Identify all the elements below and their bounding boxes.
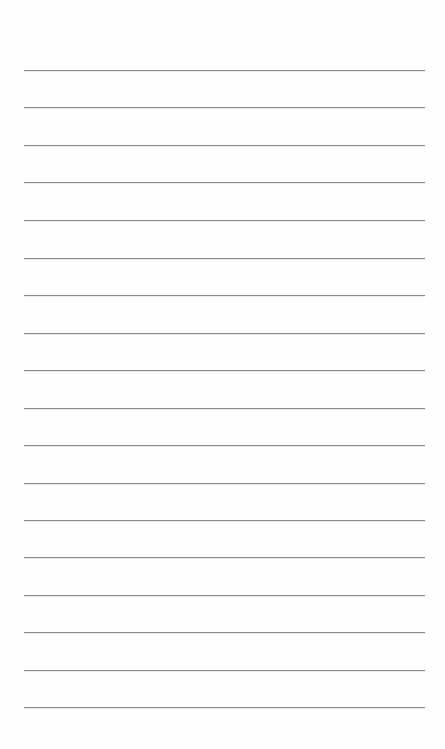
ruled-line [24, 670, 425, 671]
ruled-line [24, 445, 425, 446]
ruled-line [24, 408, 425, 409]
ruled-line [24, 258, 425, 259]
ruled-line [24, 295, 425, 296]
ruled-line [24, 632, 425, 633]
ruled-line [24, 182, 425, 183]
ruled-line [24, 370, 425, 371]
ruled-line [24, 333, 425, 334]
ruled-line [24, 145, 425, 146]
ruled-line [24, 595, 425, 596]
ruled-line [24, 70, 425, 71]
ruled-line [24, 220, 425, 221]
ruled-line [24, 520, 425, 521]
ruled-line [24, 707, 425, 708]
ruled-line [24, 557, 425, 558]
lined-paper-page [0, 0, 445, 749]
ruled-line [24, 483, 425, 484]
ruled-line [24, 107, 425, 108]
